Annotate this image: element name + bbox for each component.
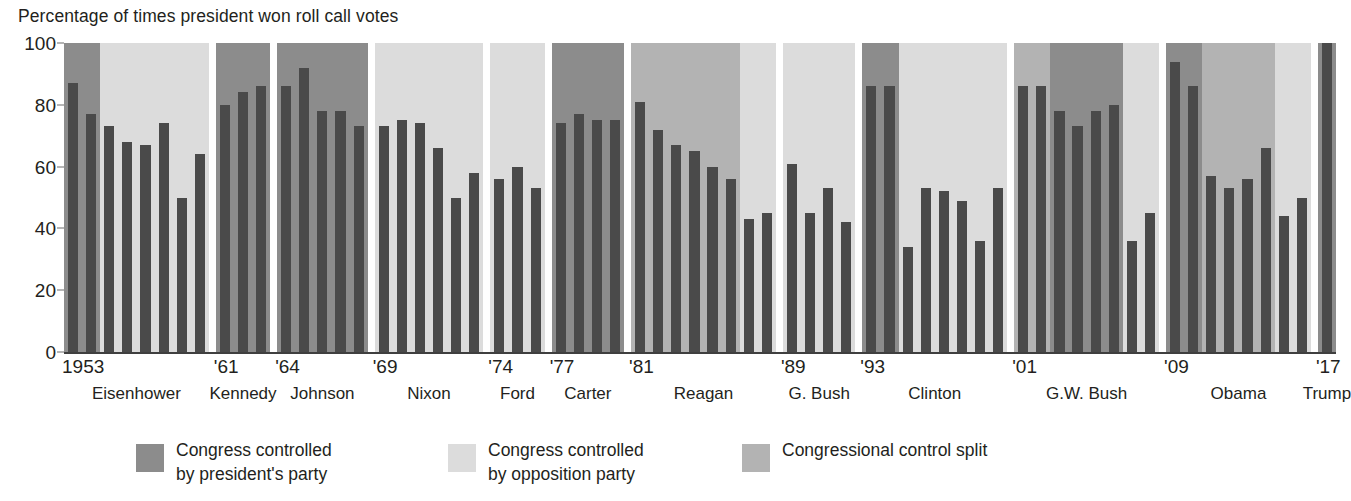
bar (574, 114, 584, 352)
y-tick-mark (57, 290, 64, 291)
bar (299, 68, 309, 352)
bar (671, 145, 681, 352)
legend-item-opposition-party[interactable]: Congress controlled by opposition party (448, 438, 644, 486)
bar (238, 92, 248, 352)
bar (744, 219, 754, 352)
bar (1242, 179, 1252, 352)
x-tick-label: '81 (629, 356, 654, 378)
y-axis: 020406080100 (0, 43, 64, 352)
bar (841, 222, 851, 352)
plot-area (64, 43, 1336, 352)
president-label: Nixon (407, 383, 450, 405)
bar (726, 179, 736, 352)
bar (354, 126, 364, 352)
bar (1170, 62, 1180, 352)
y-tick-mark (57, 166, 64, 167)
y-tick-label: 100 (24, 34, 56, 53)
x-tick-label: 1953 (62, 356, 104, 378)
bar (635, 102, 645, 352)
bar (921, 188, 931, 352)
bar (1206, 176, 1216, 352)
bar (86, 114, 96, 352)
bar (256, 86, 266, 352)
bar (317, 111, 327, 352)
y-tick-mark (57, 228, 64, 229)
bar (610, 120, 620, 352)
bar (494, 179, 504, 352)
bar (140, 145, 150, 352)
bar (805, 213, 815, 352)
x-tick-label: '74 (488, 356, 513, 378)
x-tick-label: '61 (214, 356, 239, 378)
legend-label: Congress controlled by president's party (176, 438, 332, 486)
bar (1297, 198, 1307, 353)
bar (1018, 86, 1028, 352)
bar (531, 188, 541, 352)
x-tick-label: '01 (1012, 356, 1037, 378)
bar (451, 198, 461, 353)
bar (335, 111, 345, 352)
president-label: Carter (564, 383, 611, 405)
bar (762, 213, 772, 352)
president-label: G.W. Bush (1046, 383, 1127, 405)
y-tick-mark (57, 352, 64, 353)
bar (68, 83, 78, 352)
bar (993, 188, 1003, 352)
x-tick-label: '09 (1164, 356, 1189, 378)
bar (1145, 213, 1155, 352)
bar (592, 120, 602, 352)
y-tick-label: 80 (35, 95, 56, 114)
y-tick-mark (57, 43, 64, 44)
president-label: Johnson (290, 383, 354, 405)
bar (397, 120, 407, 352)
x-tick-label: '89 (781, 356, 806, 378)
y-tick-label: 60 (35, 157, 56, 176)
bar (104, 126, 114, 352)
bar (707, 167, 717, 352)
x-axis-ticks: 1953'61'64'69'74'77'81'89'93'01'09'17 (0, 356, 1344, 382)
bar (469, 173, 479, 352)
legend-item-president-party[interactable]: Congress controlled by president's party (136, 438, 332, 486)
x-tick-label: '69 (373, 356, 398, 378)
legend-item-control-split[interactable]: Congressional control split (742, 438, 987, 472)
bar (195, 154, 205, 352)
y-tick-mark (57, 104, 64, 105)
y-tick-label: 40 (35, 219, 56, 238)
bar (177, 198, 187, 353)
legend-swatch-icon (136, 444, 164, 472)
chart-legend: Congress controlled by president's party… (0, 438, 1344, 498)
bar (653, 130, 663, 352)
bar (512, 167, 522, 352)
bar (1322, 43, 1332, 352)
president-label: Eisenhower (92, 383, 181, 405)
bar (1072, 126, 1082, 352)
president-label: Clinton (908, 383, 961, 405)
bar (220, 105, 230, 352)
bar (122, 142, 132, 352)
bar (866, 86, 876, 352)
chart-title: Percentage of times president won roll c… (18, 6, 398, 26)
bar (1261, 148, 1271, 352)
bar (281, 86, 291, 352)
legend-label: Congressional control split (782, 438, 987, 462)
bar (433, 148, 443, 352)
bar (823, 188, 833, 352)
x-tick-label: '64 (275, 356, 300, 378)
bar (903, 247, 913, 352)
x-tick-label: '93 (860, 356, 885, 378)
legend-label: Congress controlled by opposition party (488, 438, 644, 486)
y-tick-label: 20 (35, 281, 56, 300)
bar (957, 201, 967, 352)
x-axis-line (64, 352, 1336, 354)
bar (787, 164, 797, 352)
bar (1036, 86, 1046, 352)
president-labels: EisenhowerKennedyJohnsonNixonFordCarterR… (0, 383, 1344, 409)
bar (1127, 241, 1137, 352)
bar (1091, 111, 1101, 352)
president-label: Reagan (674, 383, 734, 405)
bar (975, 241, 985, 352)
x-tick-label: '77 (550, 356, 575, 378)
bar (415, 123, 425, 352)
x-tick-label: '17 (1316, 356, 1341, 378)
